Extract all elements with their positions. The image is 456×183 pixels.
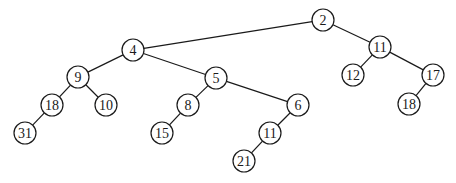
tree-edge (196, 86, 208, 98)
tree-node: 11 (259, 122, 281, 144)
node-label: 11 (373, 40, 386, 55)
tree-edge (361, 55, 373, 67)
node-label: 18 (45, 98, 59, 113)
tree-edge (226, 81, 287, 101)
tree-edge (59, 85, 70, 97)
tree-node: 31 (14, 122, 36, 144)
node-label: 15 (155, 126, 169, 141)
node-label: 12 (346, 68, 360, 83)
tree-edge (390, 52, 424, 70)
node-label: 9 (75, 70, 82, 85)
tree-node: 6 (287, 94, 309, 116)
tree-edge (278, 113, 290, 125)
node-label: 17 (426, 68, 440, 83)
node-label: 31 (18, 126, 32, 141)
tree-edge (144, 22, 312, 49)
tree-nodes: 24119512171810861831151121 (14, 9, 444, 172)
tree-edge (169, 113, 180, 125)
tree-edges (33, 22, 426, 153)
tree-edge (86, 85, 98, 97)
tree-node: 5 (205, 67, 227, 89)
node-label: 18 (402, 97, 416, 112)
tree-edge (33, 113, 45, 125)
tree-node: 15 (151, 122, 173, 144)
tree-edge (251, 141, 262, 153)
node-label: 10 (99, 98, 113, 113)
node-label: 2 (320, 13, 327, 28)
tree-edge (416, 83, 426, 95)
tree-node: 18 (398, 93, 420, 115)
node-label: 11 (263, 126, 276, 141)
tree-edge (333, 25, 370, 43)
tree-node: 18 (41, 94, 63, 116)
tree-diagram: 24119512171810861831151121 (0, 0, 456, 183)
tree-node: 17 (422, 64, 444, 86)
tree-node: 11 (369, 36, 391, 58)
tree-node: 8 (177, 94, 199, 116)
node-label: 21 (237, 154, 251, 169)
tree-edge (143, 54, 205, 75)
tree-node: 12 (342, 64, 364, 86)
tree-node: 4 (122, 39, 144, 61)
node-label: 4 (130, 43, 137, 58)
tree-node: 9 (67, 66, 89, 88)
node-label: 8 (185, 98, 192, 113)
tree-node: 2 (312, 9, 334, 31)
tree-node: 10 (95, 94, 117, 116)
node-label: 5 (213, 71, 220, 86)
tree-node: 21 (233, 150, 255, 172)
tree-edge (88, 55, 123, 72)
node-label: 6 (295, 98, 302, 113)
